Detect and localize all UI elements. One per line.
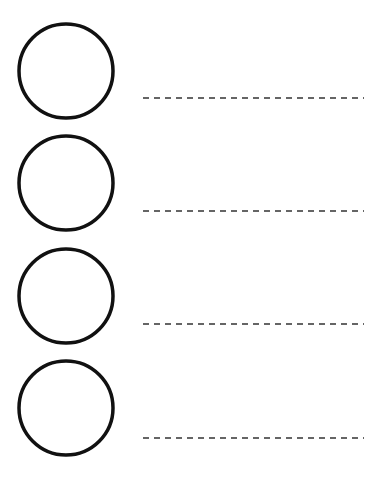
worksheet-row: [19, 249, 364, 343]
answer-circle: [19, 136, 113, 230]
answer-circle: [19, 249, 113, 343]
worksheet-canvas: [0, 0, 382, 478]
answer-circle: [19, 24, 113, 118]
worksheet-row: [19, 136, 364, 230]
worksheet: [0, 0, 382, 478]
worksheet-row: [19, 24, 364, 118]
worksheet-row: [19, 361, 364, 455]
answer-circle: [19, 361, 113, 455]
